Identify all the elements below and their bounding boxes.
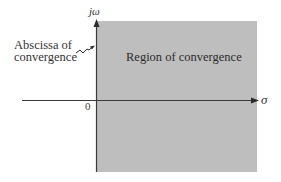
region-of-convergence-label: Region of convergence <box>126 51 242 64</box>
sigma-axis-arrowhead-icon <box>251 98 259 104</box>
s-plane-diagram: jω σ 0 Region of convergence Abscissa of… <box>0 0 281 182</box>
axes-graphic <box>0 0 281 182</box>
abscissa-of-convergence-label: Abscissa of convergence <box>14 39 77 63</box>
abscissa-label-line-2: convergence <box>14 51 77 63</box>
sigma-axis-label: σ <box>261 93 267 106</box>
jw-axis-label: jω <box>89 6 100 17</box>
jw-axis-arrowhead-icon <box>94 19 100 27</box>
origin-label: 0 <box>85 101 91 112</box>
zigzag-pointer-icon <box>76 47 93 54</box>
